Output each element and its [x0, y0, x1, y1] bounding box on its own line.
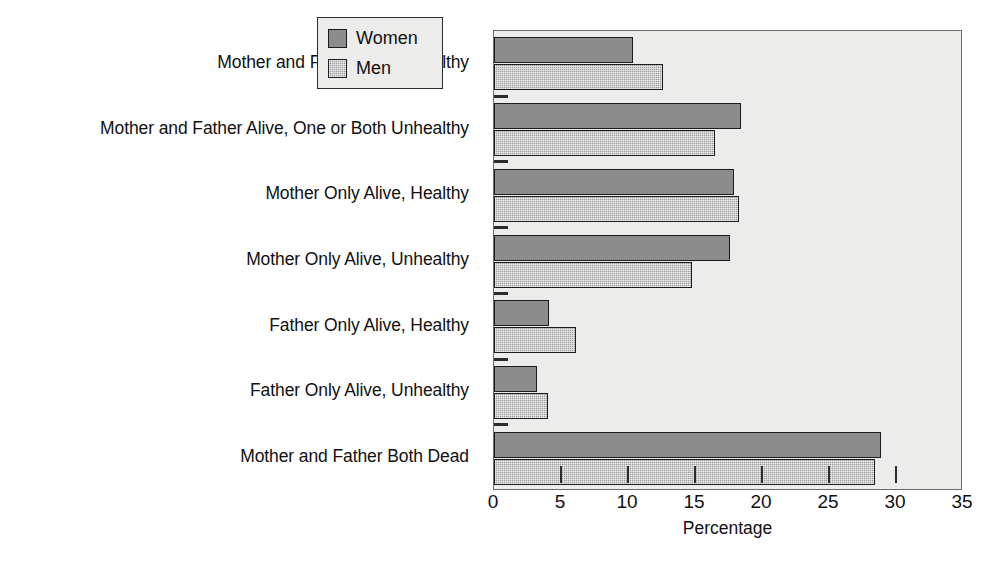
category-label-4: Father Only Alive, Healthy	[269, 317, 469, 335]
x-axis-tick-label-4: 20	[750, 492, 771, 511]
category-label-1: Mother and Father Alive, One or Both Unh…	[100, 120, 469, 138]
bar-men-0	[494, 64, 663, 90]
y-axis-tick-5	[494, 423, 508, 426]
x-axis-tick-4	[761, 466, 763, 483]
legend-label-women: Women	[356, 29, 418, 47]
bar-women-1	[494, 103, 741, 129]
x-axis-tick-label-5: 25	[817, 492, 838, 511]
y-axis-tick-1	[494, 160, 508, 163]
legend-item-women: Women	[328, 26, 418, 50]
x-axis-ticks	[493, 466, 962, 490]
category-axis-labels: Mother and Father Alive, HealthyMother a…	[0, 30, 481, 490]
bar-men-2	[494, 196, 739, 222]
x-axis-tick-label-3: 15	[683, 492, 704, 511]
bar-women-0	[494, 37, 633, 63]
x-axis-tick-label-0: 0	[488, 492, 499, 511]
category-label-6: Mother and Father Both Dead	[240, 448, 469, 466]
bar-women-5	[494, 366, 537, 392]
category-label-3: Mother Only Alive, Unhealthy	[246, 251, 469, 269]
x-axis-title: Percentage	[493, 520, 962, 538]
legend-swatch-men-icon	[328, 59, 347, 78]
x-axis-tick-label-7: 35	[951, 492, 972, 511]
x-axis-tick-1	[560, 466, 562, 483]
x-axis-tick-3	[694, 466, 696, 483]
category-label-5: Father Only Alive, Unhealthy	[250, 382, 469, 400]
bar-men-5	[494, 393, 548, 419]
plot-area	[493, 30, 962, 490]
bar-women-2	[494, 169, 734, 195]
chart-legend: Women Men	[317, 17, 443, 89]
bar-women-4	[494, 300, 549, 326]
bar-women-3	[494, 235, 730, 261]
legend-label-men: Men	[356, 59, 391, 77]
plot-inner	[494, 31, 961, 489]
x-axis-tick-label-1: 5	[555, 492, 566, 511]
y-axis-tick-3	[494, 292, 508, 295]
x-axis-tick-labels: 05101520253035	[493, 492, 962, 518]
y-axis-tick-4	[494, 358, 508, 361]
x-axis-tick-2	[627, 466, 629, 483]
bar-women-6	[494, 432, 881, 458]
x-axis-tick-6	[895, 466, 897, 483]
bar-men-3	[494, 262, 692, 288]
category-label-2: Mother Only Alive, Healthy	[265, 185, 469, 203]
bar-men-1	[494, 130, 715, 156]
y-axis-tick-2	[494, 226, 508, 229]
x-axis-tick-5	[828, 466, 830, 483]
y-axis-tick-0	[494, 95, 508, 98]
x-axis-tick-label-6: 30	[884, 492, 905, 511]
legend-swatch-women-icon	[328, 29, 347, 48]
x-axis-tick-label-2: 10	[616, 492, 637, 511]
legend-item-men: Men	[328, 56, 391, 80]
bar-men-4	[494, 327, 576, 353]
bar-chart: Mother and Father Alive, HealthyMother a…	[0, 0, 1004, 565]
